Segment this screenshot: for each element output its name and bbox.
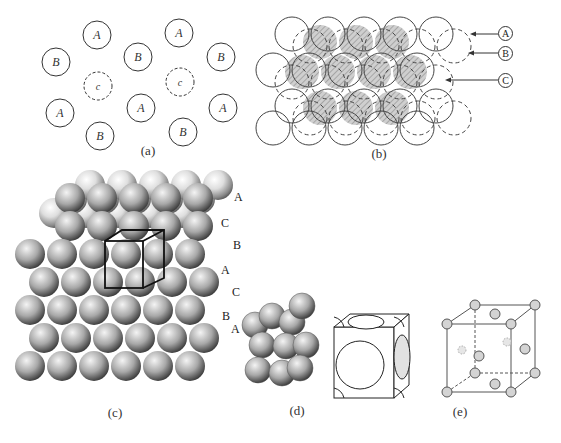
sphere xyxy=(79,351,109,381)
sphere xyxy=(93,267,123,297)
sphere xyxy=(15,239,45,269)
lattice-point xyxy=(470,368,480,378)
layer-a-sphere xyxy=(419,89,453,123)
lattice-point xyxy=(490,379,500,389)
site-label: B xyxy=(52,55,60,69)
sphere xyxy=(47,239,77,269)
sphere xyxy=(111,351,141,381)
stacking-label: A xyxy=(221,263,230,278)
layer-a-sphere xyxy=(400,111,434,145)
sphere xyxy=(55,183,85,213)
sphere xyxy=(157,267,187,297)
sphere xyxy=(175,239,205,269)
sphere xyxy=(55,211,85,241)
sphere xyxy=(29,323,59,353)
figure-canvas: AABBBccAAABB xyxy=(0,0,561,443)
caption-b: (b) xyxy=(371,146,386,162)
hidden-lattice-point xyxy=(458,346,466,354)
panel-d xyxy=(242,293,410,398)
sphere xyxy=(143,351,173,381)
sphere xyxy=(125,267,155,297)
sphere xyxy=(143,239,173,269)
sphere xyxy=(175,351,205,381)
arrow-head-icon xyxy=(445,78,451,83)
lattice-point xyxy=(442,387,452,397)
site-label: A xyxy=(92,28,101,42)
arrow-head-icon xyxy=(470,32,476,37)
site-label: B xyxy=(134,50,142,64)
stacking-label: C xyxy=(221,216,229,231)
site-label: A xyxy=(174,26,183,40)
caption-d: (d) xyxy=(289,403,304,419)
sphere xyxy=(29,267,59,297)
site-label: B xyxy=(96,129,104,143)
sphere xyxy=(175,295,205,325)
sphere xyxy=(111,295,141,325)
sphere xyxy=(47,295,77,325)
sphere xyxy=(119,183,149,213)
site-label: c xyxy=(96,81,101,92)
lattice-point xyxy=(530,300,540,310)
stacking-label: C xyxy=(232,285,240,300)
stippled-sphere xyxy=(293,332,319,358)
sphere xyxy=(111,239,141,269)
cut-sphere-cube xyxy=(334,314,410,398)
stacking-label: A xyxy=(231,322,240,337)
sphere xyxy=(143,295,173,325)
lattice-point xyxy=(474,351,484,361)
panel-e xyxy=(442,300,540,397)
sphere xyxy=(183,211,213,241)
site-label: B xyxy=(179,125,187,139)
sphere xyxy=(183,183,213,213)
panel-a: AABBBccAAABB xyxy=(42,19,237,150)
site-label: B xyxy=(217,50,225,64)
layer-a-sphere xyxy=(256,111,290,145)
layer-a-sphere xyxy=(419,17,453,51)
lattice-point xyxy=(506,387,516,397)
lattice-point xyxy=(442,319,452,329)
layer-a-sphere xyxy=(256,53,290,87)
site-label: A xyxy=(136,101,145,115)
hidden-lattice-point xyxy=(503,338,511,346)
site-label: A xyxy=(218,101,227,115)
sphere xyxy=(125,323,155,353)
sphere xyxy=(119,211,149,241)
stacking-label: A xyxy=(234,190,243,205)
caption-e: (e) xyxy=(453,404,467,420)
caption-a: (a) xyxy=(141,143,155,159)
layer-label-c: C xyxy=(498,73,513,88)
panel-c xyxy=(15,170,233,381)
sphere xyxy=(15,351,45,381)
lattice-point xyxy=(520,344,530,354)
caption-c: (c) xyxy=(108,405,122,421)
stippled-sphere xyxy=(249,332,275,358)
sphere xyxy=(15,295,45,325)
sphere xyxy=(61,267,91,297)
stippled-sphere xyxy=(287,355,313,381)
lattice-point xyxy=(506,319,516,329)
layer-label-a: A xyxy=(498,26,513,41)
layer-b-sphere xyxy=(437,101,471,135)
site-label: c xyxy=(178,77,183,88)
lattice-point xyxy=(530,368,540,378)
sphere xyxy=(189,267,219,297)
stacking-label: B xyxy=(233,238,241,253)
sphere xyxy=(157,323,187,353)
sphere xyxy=(79,295,109,325)
sphere xyxy=(93,323,123,353)
sphere xyxy=(151,183,181,213)
layer-a-sphere xyxy=(275,17,309,51)
stippled-sphere xyxy=(245,357,271,383)
layer-label-b: B xyxy=(498,46,513,61)
sphere xyxy=(189,323,219,353)
layer-b-sphere xyxy=(401,101,435,135)
stacking-label: B xyxy=(222,309,230,324)
lattice-point xyxy=(470,300,480,310)
site-label: A xyxy=(55,106,64,120)
panel-b xyxy=(256,17,498,145)
layer-b-sphere xyxy=(437,29,471,63)
sphere xyxy=(61,323,91,353)
lattice-point xyxy=(490,309,500,319)
sphere xyxy=(87,183,117,213)
sphere xyxy=(47,351,77,381)
